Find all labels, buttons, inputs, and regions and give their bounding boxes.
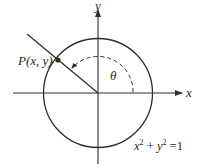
theta-label: θ [110, 69, 116, 82]
point-p-marker [55, 57, 60, 62]
eq-x-exponent: 2 [140, 138, 144, 147]
eq-rhs: 1 [177, 139, 183, 153]
angle-arc [72, 56, 133, 92]
unit-circle-diagram: y x P(x, y) θ x2 + y2 =1 [0, 0, 205, 168]
point-p-label: P(x, y) [18, 54, 53, 67]
eq-equals: = [170, 139, 177, 153]
x-axis-label: x [186, 86, 192, 99]
circle-equation: x2 + y2 =1 [134, 139, 183, 153]
eq-plus: + [147, 139, 154, 153]
y-axis-label: y [95, 0, 101, 12]
eq-y-exponent: 2 [162, 138, 166, 147]
